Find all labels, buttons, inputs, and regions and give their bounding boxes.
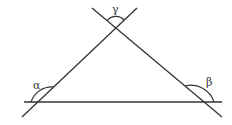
left-side-line [22, 8, 137, 117]
beta-label: β [206, 76, 212, 89]
triangle-diagram: α β γ [0, 0, 232, 125]
gamma-angle-arc [107, 16, 124, 21]
diagram-canvas: α β γ [0, 0, 232, 125]
right-side-line [92, 8, 222, 117]
alpha-label: α [33, 79, 41, 92]
gamma-label: γ [112, 3, 119, 16]
